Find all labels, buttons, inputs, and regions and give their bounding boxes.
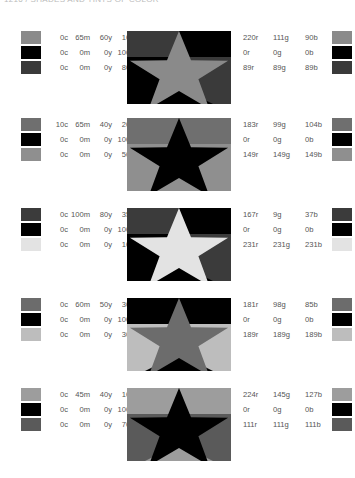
rgb-g-value: 99g: [273, 120, 305, 129]
color-swatch-right: [332, 148, 352, 161]
color-swatch-right: [332, 328, 352, 341]
rgb-r-value: 149r: [243, 150, 273, 159]
rgb-b-value: 0b: [305, 405, 329, 414]
rgb-b-value: 104b: [305, 120, 329, 129]
cmyk-c-value: 0c: [48, 33, 68, 42]
cmyk-values: 10c65m40y20k: [48, 120, 134, 129]
color-swatch-left: [21, 133, 41, 146]
cmyk-values: 0c0m0y100k: [48, 135, 134, 144]
color-swatch-left: [21, 208, 41, 221]
cmyk-y-value: 0y: [90, 135, 112, 144]
color-swatch-left: [21, 61, 41, 74]
color-swatch-right: [332, 298, 352, 311]
color-swatch-left: [21, 238, 41, 251]
rgb-b-value: 0b: [305, 315, 329, 324]
rgb-r-value: 0r: [243, 135, 273, 144]
cmyk-values: 0c0m0y50k: [48, 150, 134, 159]
rgb-values: 231r231g231b: [243, 240, 329, 249]
color-swatch-left: [21, 31, 41, 44]
cmyk-y-value: 0y: [90, 48, 112, 57]
rgb-g-value: 98g: [273, 300, 305, 309]
cmyk-values: 0c0m0y30k: [48, 330, 134, 339]
cmyk-c-value: 0c: [48, 210, 68, 219]
rgb-g-value: 0g: [273, 405, 305, 414]
rgb-values: 0r0g0b: [243, 135, 329, 144]
cmyk-m-value: 65m: [68, 33, 90, 42]
cmyk-y-value: 0y: [90, 405, 112, 414]
rgb-values: 189r189g189b: [243, 330, 329, 339]
star-illustration: [127, 298, 231, 371]
cmyk-m-value: 60m: [68, 300, 90, 309]
cmyk-values: 0c45m40y10k: [48, 390, 134, 399]
rgb-r-value: 0r: [243, 315, 273, 324]
rgb-values: 183r99g104b: [243, 120, 329, 129]
rgb-b-value: 85b: [305, 300, 329, 309]
cmyk-m-value: 0m: [68, 315, 90, 324]
color-swatch-right: [332, 118, 352, 131]
cmyk-y-value: 40y: [90, 390, 112, 399]
cmyk-m-value: 100m: [68, 210, 90, 219]
color-swatch-left: [21, 403, 41, 416]
cmyk-c-value: 0c: [48, 150, 68, 159]
cmyk-y-value: 40y: [90, 120, 112, 129]
color-row: 0c65m60y10k220r111g90b0c0m0y100k0r0g0b0c…: [0, 31, 355, 111]
rgb-r-value: 0r: [243, 225, 273, 234]
rgb-g-value: 9g: [273, 210, 305, 219]
cmyk-m-value: 45m: [68, 390, 90, 399]
color-swatch-left: [21, 388, 41, 401]
cmyk-values: 0c0m0y80k: [48, 63, 134, 72]
rgb-g-value: 189g: [273, 330, 305, 339]
cmyk-c-value: 0c: [48, 330, 68, 339]
rgb-b-value: 37b: [305, 210, 329, 219]
cmyk-values: 0c0m0y100k: [48, 315, 134, 324]
rgb-r-value: 167r: [243, 210, 273, 219]
cmyk-y-value: 0y: [90, 150, 112, 159]
cmyk-y-value: 0y: [90, 225, 112, 234]
cmyk-c-value: 0c: [48, 315, 68, 324]
color-swatch-right: [332, 313, 352, 326]
cmyk-values: 0c60m50y30k: [48, 300, 134, 309]
rgb-g-value: 0g: [273, 315, 305, 324]
color-swatch-left: [21, 148, 41, 161]
rgb-b-value: 189b: [305, 330, 329, 339]
color-swatch-right: [332, 46, 352, 59]
cmyk-m-value: 0m: [68, 405, 90, 414]
cmyk-c-value: 0c: [48, 405, 68, 414]
color-swatch-right: [332, 61, 352, 74]
color-row: 0c45m40y10k224r145g127b0c0m0y100k0r0g0b0…: [0, 388, 355, 468]
rgb-values: 224r145g127b: [243, 390, 329, 399]
rgb-values: 220r111g90b: [243, 33, 329, 42]
cmyk-values: 0c100m80y35k: [48, 210, 134, 219]
cmyk-c-value: 10c: [48, 120, 68, 129]
rgb-r-value: 111r: [243, 420, 273, 429]
cmyk-values: 0c0m0y100k: [48, 225, 134, 234]
cmyk-m-value: 65m: [68, 120, 90, 129]
rgb-g-value: 111g: [273, 420, 305, 429]
cmyk-y-value: 0y: [90, 240, 112, 249]
rgb-r-value: 0r: [243, 48, 273, 57]
color-swatch-left: [21, 418, 41, 431]
cmyk-values: 0c0m0y10k: [48, 240, 134, 249]
cmyk-y-value: 0y: [90, 330, 112, 339]
cmyk-values: 0c0m0y100k: [48, 405, 134, 414]
cmyk-y-value: 80y: [90, 210, 112, 219]
color-swatch-left: [21, 223, 41, 236]
cmyk-c-value: 0c: [48, 135, 68, 144]
rgb-r-value: 183r: [243, 120, 273, 129]
rgb-values: 167r9g37b: [243, 210, 329, 219]
cmyk-c-value: 0c: [48, 390, 68, 399]
rgb-r-value: 89r: [243, 63, 273, 72]
rgb-b-value: 127b: [305, 390, 329, 399]
cmyk-m-value: 0m: [68, 63, 90, 72]
rgb-b-value: 89b: [305, 63, 329, 72]
rgb-g-value: 0g: [273, 48, 305, 57]
rgb-g-value: 231g: [273, 240, 305, 249]
cmyk-values: 0c65m60y10k: [48, 33, 134, 42]
color-swatch-right: [332, 418, 352, 431]
rgb-values: 111r111g111b: [243, 420, 329, 429]
cmyk-m-value: 0m: [68, 330, 90, 339]
rgb-values: 181r98g85b: [243, 300, 329, 309]
color-row: 0c60m50y30k181r98g85b0c0m0y100k0r0g0b0c0…: [0, 298, 355, 378]
page-header: 1216 / SHADES AND TINTS OF COLOR: [4, 0, 159, 4]
rgb-b-value: 90b: [305, 33, 329, 42]
